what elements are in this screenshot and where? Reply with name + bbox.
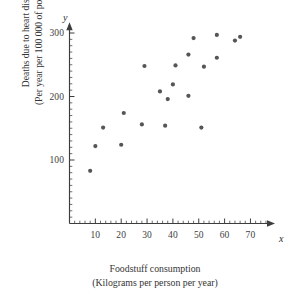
data-point [173,63,177,67]
data-point [140,122,144,126]
data-point [142,64,146,68]
data-point [186,94,190,98]
x-tick-label: 10 [90,230,100,240]
data-point [163,124,167,128]
x-tick-label: 50 [194,230,204,240]
data-point [186,52,190,56]
x-tick-label: 40 [168,230,178,240]
data-point [158,89,162,93]
y-tick-label: 100 [38,155,64,165]
x-axis-title-line-2: (Kilograms per person per year) [40,276,270,290]
x-tick-label: 70 [246,230,256,240]
data-point [101,126,105,130]
x-axis-variable-symbol: x [279,233,283,244]
data-point [93,144,97,148]
x-tick-label: 60 [220,230,230,240]
data-point [122,111,126,115]
y-axis-title-line-2: (Per year per 100 000 of population) [32,0,45,135]
x-tick-label: 20 [116,230,126,240]
data-point [215,33,219,37]
data-point [215,56,219,60]
data-point [119,143,123,147]
axis-lines [66,22,275,226]
x-tick-label: 30 [142,230,152,240]
axis-ticks [70,33,266,224]
y-axis-title-line-1: Deaths due to heart disease [19,0,32,135]
y-axis-title: Deaths due to heart disease (Per year pe… [19,0,53,135]
x-axis-title-line-1: Foodstuff consumption [40,262,270,276]
data-point [166,97,170,101]
data-point [199,126,203,130]
x-axis-title: Foodstuff consumption (Kilograms per per… [40,262,270,290]
data-point [238,35,242,39]
data-point [202,65,206,69]
data-point [191,36,195,40]
data-point-layer [88,33,242,173]
data-point [171,82,175,86]
data-point [88,169,92,173]
scatter-plot-figure: 100200300 10203040506070 y x Deaths due … [0,0,296,300]
y-axis-variable-symbol: y [63,12,67,23]
data-point [233,39,237,43]
